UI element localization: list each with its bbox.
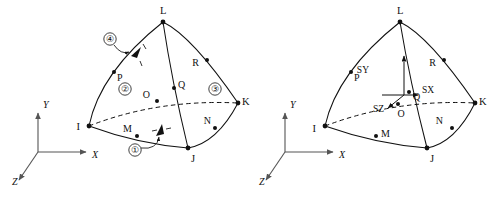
left-midnode-labels: M N O P Q R (117, 57, 211, 134)
z-axis-label: Z (12, 176, 18, 187)
left-vertex-labels: I J K L (77, 5, 251, 164)
x-axis-label-right: X (338, 149, 346, 160)
y-axis-label-right: Y (290, 99, 297, 110)
sy-label: SY (357, 65, 369, 75)
face-4-tick-bottom (140, 61, 142, 66)
face-4-annotation: ④ (104, 33, 146, 66)
node-dot-N-right (450, 126, 454, 130)
vertex-label-J: J (191, 153, 195, 164)
node-dot-M-right (374, 134, 378, 138)
left-diagram-group: X Y Z (12, 5, 250, 187)
vertex-label-L-right: L (397, 5, 403, 16)
z-axis-label-right: Z (259, 176, 265, 187)
node-dot-L-right (398, 20, 403, 25)
node-dot-I-right (323, 124, 328, 129)
right-vertex-labels: I J K L (313, 5, 488, 164)
node-label-P: P (117, 72, 123, 83)
node-dot-J (186, 146, 191, 151)
element-coordinate-triad: SY SX SZ (357, 56, 434, 114)
z-axis-line-right (266, 152, 285, 180)
sz-label: SZ (373, 104, 384, 114)
edge-J-K (188, 103, 238, 148)
x-axis-label: X (91, 149, 99, 160)
y-axis-label: Y (43, 99, 50, 110)
node-label-M: M (123, 123, 132, 134)
face-3-annotation: ③ (209, 83, 221, 95)
z-axis-line (19, 152, 38, 180)
figure-root: X Y Z (0, 0, 494, 199)
face-4-tick-top (143, 44, 146, 49)
edge-I-L (89, 22, 163, 126)
node-label-Q: Q (178, 79, 186, 90)
vertex-label-K: K (242, 96, 250, 107)
face-4-normal-arrow (131, 47, 141, 58)
node-dot-O-right (396, 102, 400, 106)
face-1-tick-right (166, 128, 171, 129)
node-dot-Q (172, 86, 176, 90)
node-label-M-right: M (381, 128, 390, 139)
node-dot-P-right (349, 70, 353, 74)
node-label-Q-right: Q (413, 91, 421, 102)
node-dot-N (213, 126, 217, 130)
sx-label: SX (422, 85, 434, 95)
node-label-N-right: N (436, 115, 443, 126)
node-label-R-right: R (429, 57, 436, 68)
node-label-O-right: O (397, 108, 404, 119)
tetrahedral-element-figure: X Y Z (0, 0, 494, 199)
face-3-number: ③ (211, 84, 219, 94)
vertex-label-J-right: J (430, 153, 434, 164)
face-2-number: ② (121, 84, 129, 94)
face-4-leader (114, 45, 129, 53)
node-label-R: R (192, 57, 199, 68)
edge-L-K-right (400, 22, 475, 103)
node-dot-Q-right (407, 90, 411, 94)
left-global-axes: X Y Z (12, 99, 99, 187)
right-node-dots (323, 20, 478, 151)
right-global-axes: X Y Z (259, 99, 346, 187)
vertex-label-L: L (160, 5, 166, 16)
node-dot-L (161, 20, 166, 25)
face-2-annotation: ② (119, 83, 131, 95)
node-dot-K (236, 101, 241, 106)
node-label-N: N (204, 115, 211, 126)
node-dot-R (205, 58, 209, 62)
node-label-O: O (143, 89, 150, 100)
node-dot-R-right (442, 58, 446, 62)
edge-L-K (163, 22, 238, 103)
node-dot-P (112, 70, 116, 74)
face-4-number: ④ (106, 34, 114, 44)
face-1-number: ① (131, 145, 139, 155)
vertex-label-I-right: I (313, 123, 317, 134)
node-dot-K-right (473, 101, 478, 106)
edge-I-K-hidden (89, 102, 238, 126)
node-dot-J-right (425, 146, 430, 151)
node-dot-M (135, 134, 139, 138)
edge-J-K-right (427, 103, 475, 148)
right-diagram-group: X Y Z (259, 5, 487, 187)
face-1-tick-left (152, 130, 157, 131)
node-dot-O (155, 99, 159, 103)
face-1-normal-arrow (156, 124, 164, 136)
vertex-label-K-right: K (479, 96, 487, 107)
vertex-label-I: I (77, 121, 81, 132)
node-dot-I (87, 124, 92, 129)
